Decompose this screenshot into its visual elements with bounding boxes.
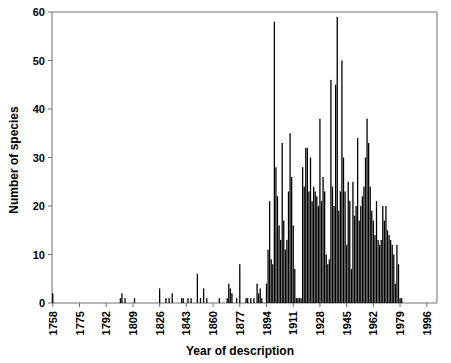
bar (377, 240, 378, 303)
bar (349, 201, 350, 303)
bar (338, 211, 339, 303)
bar (332, 187, 333, 303)
bar (291, 177, 292, 303)
x-tick-label: 1826 (154, 311, 166, 335)
bar (296, 298, 297, 303)
x-tick-label: 1894 (261, 310, 273, 335)
y-tick-label: 30 (33, 152, 45, 164)
bar (390, 240, 391, 303)
bar (286, 240, 287, 303)
bar (239, 264, 240, 303)
bar (230, 288, 231, 303)
x-tick-label: 1911 (287, 311, 299, 335)
x-tick-label: 1962 (367, 311, 379, 335)
bar (288, 191, 289, 303)
bar (393, 255, 394, 304)
bar (321, 201, 322, 303)
bar (304, 187, 305, 303)
bar (302, 167, 303, 303)
bar (231, 293, 232, 303)
chart-figure: 0102030405060 17581775179218091826184318… (0, 0, 451, 363)
bar (121, 293, 122, 303)
bar (341, 61, 342, 304)
y-tick-label: 60 (33, 6, 45, 18)
bar (315, 191, 316, 303)
bar (396, 245, 397, 303)
bar (395, 284, 396, 303)
histogram-chart: 0102030405060 17581775179218091826184318… (0, 0, 451, 363)
x-axis-ticks (53, 303, 427, 307)
bar (285, 250, 286, 303)
bar (322, 177, 323, 303)
bar (335, 85, 336, 303)
bar (329, 259, 330, 303)
bar (200, 298, 201, 303)
bar-series (52, 17, 402, 303)
bar (382, 206, 383, 303)
y-tick-label: 10 (33, 249, 45, 261)
x-tick-label: 1928 (314, 311, 326, 335)
x-tick-label: 1758 (47, 311, 59, 335)
bar (300, 298, 301, 303)
bar (219, 298, 220, 303)
bar (360, 206, 361, 303)
bar (269, 201, 270, 303)
bar (385, 206, 386, 303)
y-axis-title: Number of species (7, 106, 21, 214)
bar (392, 245, 393, 303)
bar (357, 138, 358, 303)
bar (363, 187, 364, 303)
bar (289, 133, 290, 303)
bar (313, 187, 314, 303)
bar (183, 298, 184, 303)
bar (260, 288, 261, 303)
bar (319, 119, 320, 303)
bar (181, 298, 182, 303)
bar (253, 298, 254, 303)
bar (326, 255, 327, 304)
bar (280, 240, 281, 303)
bar (52, 293, 53, 303)
bar (362, 196, 363, 303)
bar (299, 298, 300, 303)
bar (245, 298, 246, 303)
bar (165, 298, 166, 303)
bar (258, 293, 259, 303)
bar (227, 298, 228, 303)
bar (370, 187, 371, 303)
bar (159, 288, 160, 303)
bar (346, 245, 347, 303)
bar (278, 225, 279, 303)
bar (368, 143, 369, 303)
x-tick-label: 1945 (341, 311, 353, 335)
bar (206, 298, 207, 303)
bar (371, 211, 372, 303)
bar (203, 288, 204, 303)
bar (327, 264, 328, 303)
bar (267, 250, 268, 303)
x-axis-title: Year of description (186, 344, 294, 358)
bar (197, 274, 198, 303)
bar (324, 191, 325, 303)
bar (398, 264, 399, 303)
bar (359, 221, 360, 303)
bar (384, 221, 385, 303)
bar (275, 167, 276, 303)
bar (311, 201, 312, 303)
bar (352, 182, 353, 303)
x-tick-label: 1877 (234, 311, 246, 335)
bar (266, 284, 267, 303)
bar (250, 298, 251, 303)
bar (337, 17, 338, 303)
bar (271, 259, 272, 303)
bar (120, 298, 121, 303)
bar (124, 298, 125, 303)
bar (283, 221, 284, 303)
bar (399, 298, 400, 303)
bar (308, 191, 309, 303)
bar (228, 284, 229, 303)
bar (305, 148, 306, 303)
y-tick-label: 50 (33, 55, 45, 67)
bar (330, 80, 331, 303)
bar (282, 143, 283, 303)
